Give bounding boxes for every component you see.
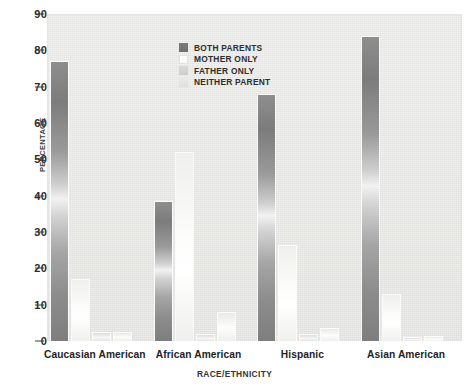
y-axis-tick-mark bbox=[35, 195, 44, 196]
bar bbox=[154, 201, 173, 341]
y-axis-title: PERCENTAGE bbox=[38, 117, 47, 172]
y-axis-tick-mark bbox=[35, 232, 44, 233]
bar bbox=[50, 61, 69, 341]
bar bbox=[299, 334, 318, 341]
bar bbox=[403, 337, 422, 341]
bar bbox=[71, 279, 90, 341]
legend-item-label: FATHER ONLY bbox=[194, 66, 254, 76]
bar bbox=[175, 152, 194, 341]
x-axis-category-label: African American bbox=[156, 349, 242, 360]
legend-item-label: MOTHER ONLY bbox=[194, 54, 258, 64]
legend-item-label: NEITHER PARENT bbox=[194, 77, 270, 87]
legend-swatch-icon bbox=[179, 55, 188, 64]
legend-item: MOTHER ONLY bbox=[179, 54, 270, 66]
x-axis-title: RACE/ETHNICITY bbox=[0, 369, 469, 379]
bar bbox=[257, 94, 276, 341]
x-axis-category-label: Hispanic bbox=[281, 349, 324, 360]
legend-item: FATHER ONLY bbox=[179, 65, 270, 77]
y-axis-tick-mark bbox=[35, 14, 44, 15]
legend-item: BOTH PARENTS bbox=[179, 42, 270, 54]
bar bbox=[320, 328, 339, 341]
y-axis-tick-mark bbox=[35, 50, 44, 51]
bar bbox=[217, 312, 236, 341]
bar bbox=[361, 36, 380, 341]
bar bbox=[196, 334, 215, 341]
bar bbox=[92, 332, 111, 341]
chart-legend: BOTH PARENTSMOTHER ONLYFATHER ONLYNEITHE… bbox=[179, 42, 270, 88]
legend-item-label: BOTH PARENTS bbox=[194, 43, 262, 53]
legend-swatch-icon bbox=[179, 78, 188, 87]
bar-chart: BOTH PARENTSMOTHER ONLYFATHER ONLYNEITHE… bbox=[0, 0, 469, 391]
y-axis-tick-mark bbox=[35, 304, 44, 305]
x-axis-category-label: Caucasian American bbox=[44, 349, 146, 360]
y-axis-tick-mark bbox=[35, 268, 44, 269]
bar bbox=[424, 336, 443, 341]
legend-swatch-icon bbox=[179, 66, 188, 75]
plot-area: BOTH PARENTSMOTHER ONLYFATHER ONLYNEITHE… bbox=[47, 14, 462, 341]
bar bbox=[382, 294, 401, 341]
y-axis: 9080706050403020100 bbox=[0, 0, 47, 391]
bar bbox=[113, 332, 132, 341]
legend-item: NEITHER PARENT bbox=[179, 77, 270, 89]
y-axis-tick-mark bbox=[35, 86, 44, 87]
y-axis-tick-mark bbox=[35, 341, 44, 342]
x-axis-category-label: Asian American bbox=[367, 349, 445, 360]
bar bbox=[278, 245, 297, 341]
legend-swatch-icon bbox=[179, 43, 188, 52]
